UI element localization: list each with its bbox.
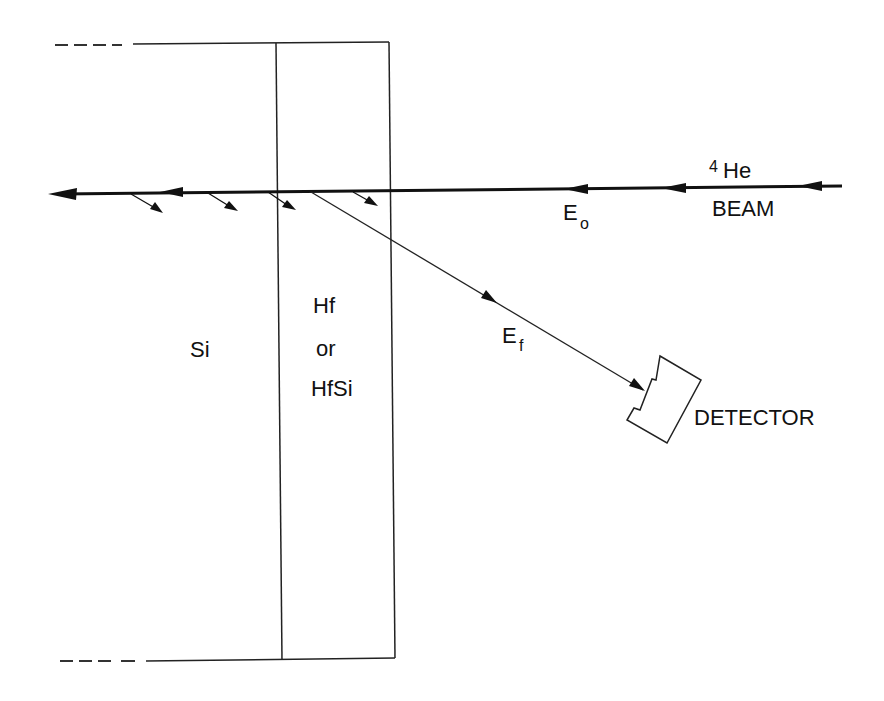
bottom-solid-line [146,658,395,661]
scatter-arrow-1 [131,194,155,208]
rbs-diagram: Si Hf or HfSi 4 He BEAM E o E f DETECTOR [0,0,884,701]
scattered-arrowhead-mid [481,290,497,303]
film-label-line1: Hf [313,293,336,318]
top-solid-line [133,42,389,44]
detector-icon [627,356,701,443]
beam-label: BEAM [712,196,774,221]
scatter-arrowhead-2 [224,201,238,211]
final-energy-label: E [502,323,517,348]
scatter-arrowhead-4 [364,196,378,206]
beam-mass-number: 4 [709,158,718,175]
beam-arrowhead-3 [564,184,588,194]
film-label-line3: HfSi [311,376,353,401]
scatter-arrowhead-3 [282,200,296,210]
film-label-line2: or [316,336,336,361]
beam-arrowhead-2 [160,187,183,197]
film-left-boundary [276,43,282,660]
final-energy-subscript: f [519,337,524,354]
beam-arrowhead-4 [661,183,686,193]
bottom-boundary [60,658,395,661]
top-boundary [55,42,389,45]
scattered-trajectory [311,192,643,390]
incident-energy-subscript: o [580,215,589,232]
scatter-arrow-2 [208,193,229,206]
beam-arrowhead-1 [48,188,77,200]
scatter-arrowhead-1 [150,202,163,213]
film-right-boundary [389,42,395,658]
beam-arrowhead-5 [798,181,822,191]
substrate-label: Si [190,337,210,362]
beam-species: He [723,158,751,183]
scattered-arrowhead-end [629,378,645,391]
incident-energy-label: E [563,200,578,225]
detector-label: DETECTOR [694,405,815,430]
